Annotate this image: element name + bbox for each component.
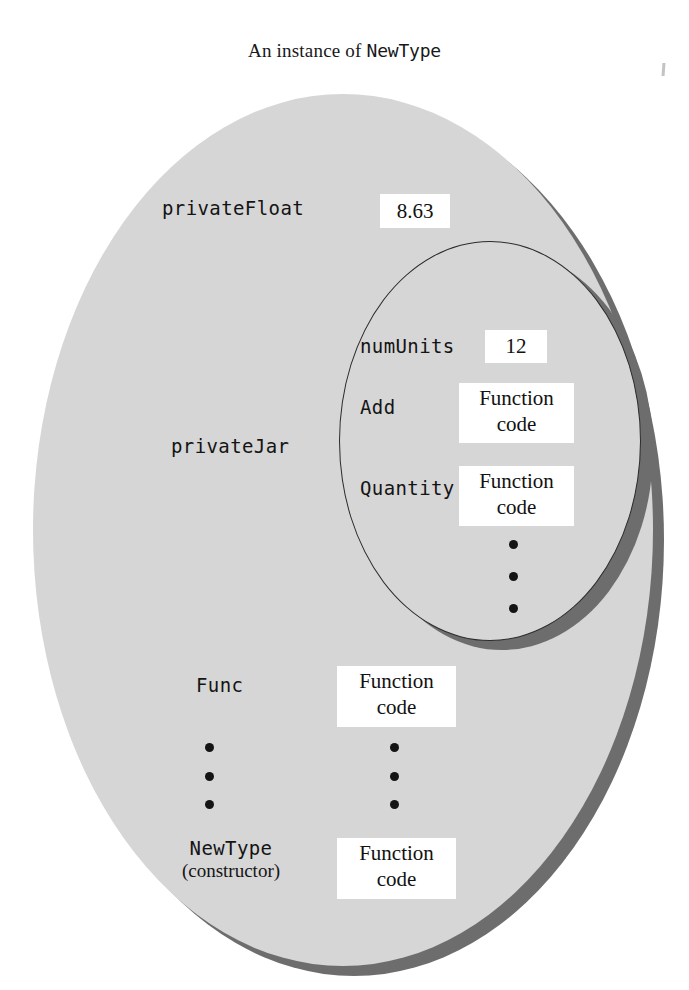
func-code-line-1: Function [459,386,574,412]
func-code-line-2: code [459,412,574,438]
member-label-private-jar: privateJar [171,436,289,458]
constructor-name: NewType [146,838,316,860]
func-code-line-2: code [337,695,456,721]
ellipsis-dot [205,743,214,752]
member-label-quantity: Quantity [360,478,455,500]
ellipsis-dot [509,540,518,549]
ellipsis-dot [390,743,399,752]
func-code-line-1: Function [459,469,574,495]
outer-members-ellipsis-left [205,743,214,809]
member-label-num-units: numUnits [360,336,455,358]
func-code-line-1: Function [337,841,456,867]
scan-artifact-mark [662,63,666,76]
title-type-name: NewType [367,40,441,61]
constructor-sublabel: (constructor) [146,860,316,882]
ellipsis-dot [390,772,399,781]
ellipsis-dot [205,800,214,809]
ellipsis-dot [205,772,214,781]
member-value-num-units: 12 [485,330,547,363]
member-value-constructor: Function code [337,838,456,899]
ellipsis-dot [390,800,399,809]
inner-members-ellipsis [509,540,518,613]
page-title: An instance of NewType [0,40,689,62]
member-value-add: Function code [459,383,574,443]
ellipsis-dot [509,604,518,613]
member-label-add: Add [360,397,396,419]
func-code-line-2: code [337,867,456,893]
member-value-quantity: Function code [459,466,574,526]
outer-members-ellipsis-right [390,743,399,809]
member-value-func: Function code [337,666,456,727]
func-code-line-1: Function [337,669,456,695]
ellipsis-dot [509,572,518,581]
diagram-canvas: An instance of NewType privateFloat 8.63… [0,0,689,990]
member-label-func: Func [196,675,243,697]
title-prefix: An instance of [248,40,367,61]
member-label-private-float: privateFloat [162,198,304,220]
func-code-line-2: code [459,495,574,521]
member-value-private-float: 8.63 [380,194,450,228]
member-label-constructor: NewType (constructor) [146,838,316,882]
